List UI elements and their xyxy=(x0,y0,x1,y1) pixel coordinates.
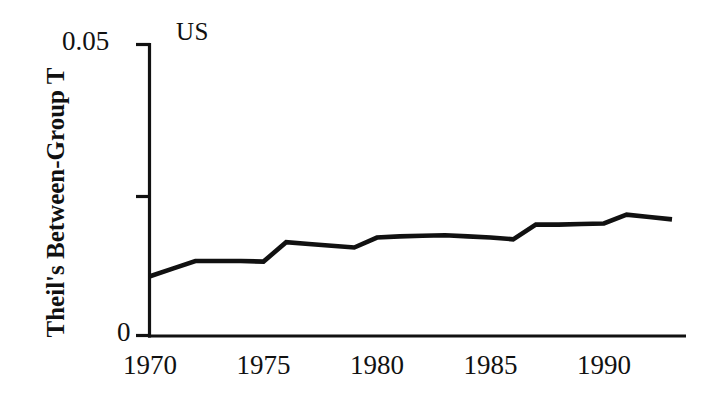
y-axis-tick-label-top: 0.05 xyxy=(62,28,109,55)
x-axis-tick-label-1990: 1990 xyxy=(577,352,631,379)
x-axis-tick-label-1980: 1980 xyxy=(350,352,404,379)
chart-figure: Theil's Between-Group T 0.05 0 US 197019… xyxy=(0,0,717,401)
y-axis-title: Theil's Between-Group T xyxy=(43,58,68,348)
panel-label-us: US xyxy=(176,19,209,44)
x-axis-tick-label-1970: 1970 xyxy=(123,352,177,379)
y-axis-tick-label-bottom: 0 xyxy=(117,319,131,346)
data-series-line-us xyxy=(150,215,672,277)
line-chart-plot xyxy=(0,0,717,401)
x-axis-tick-label-1975: 1975 xyxy=(237,352,291,379)
x-axis-tick-label-1985: 1985 xyxy=(463,352,517,379)
